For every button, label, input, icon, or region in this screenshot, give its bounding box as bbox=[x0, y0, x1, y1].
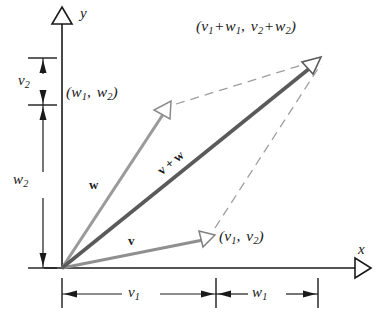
vector-w-shaft bbox=[62, 113, 164, 268]
dimension-v1-label: v1 bbox=[128, 285, 140, 302]
dim-w1-arrow-left bbox=[218, 291, 231, 298]
dim-v1-arrow-right bbox=[201, 291, 214, 298]
dashed-construction-lines bbox=[176, 60, 321, 228]
dim-w2-arrow-down bbox=[40, 253, 47, 266]
y-axis-label: y bbox=[80, 6, 87, 21]
vertical-dimension-ruler bbox=[28, 58, 57, 268]
vector-w-label: w bbox=[89, 178, 98, 191]
x-axis-arrowhead bbox=[355, 258, 371, 278]
dim-v2-arrow-up bbox=[40, 60, 47, 73]
v-point-label: (v1, v2) bbox=[219, 228, 264, 246]
dashed-line-w-to-sum bbox=[176, 60, 318, 104]
dim-v1-arrow-left bbox=[64, 291, 77, 298]
dashed-line-v-to-sum bbox=[215, 64, 321, 228]
vector-w-group bbox=[62, 101, 171, 268]
dimension-w2-label: w2 bbox=[13, 172, 28, 189]
dim-w2-arrow-up bbox=[40, 107, 47, 120]
x-axis-label: x bbox=[358, 242, 365, 257]
horizontal-dimension-ruler bbox=[62, 278, 318, 308]
dim-v2-arrow-down bbox=[40, 90, 47, 103]
vector-v-label: v bbox=[128, 234, 135, 247]
y-axis-arrowhead bbox=[52, 7, 72, 24]
vector-addition-figure: y x (v1+w1, v2+w2) (w1, w2) (v1, v2) w v… bbox=[0, 0, 390, 318]
dimension-v2-label: v2 bbox=[18, 73, 30, 90]
sum-point-label: (v1+w1, v2+w2) bbox=[196, 18, 296, 36]
vector-diagram-canvas bbox=[0, 0, 390, 318]
dim-w1-arrow-right bbox=[303, 291, 316, 298]
w-point-label: (w1, w2) bbox=[66, 84, 118, 102]
vector-v-arrowhead bbox=[199, 231, 215, 247]
dimension-w1-label: w1 bbox=[252, 285, 267, 302]
